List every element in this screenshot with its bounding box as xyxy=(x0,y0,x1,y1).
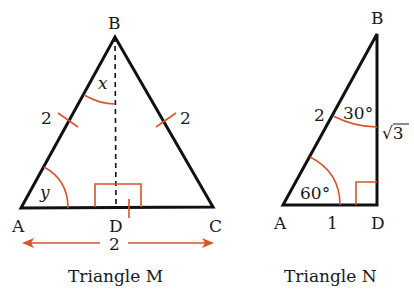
base-label-m: 2 xyxy=(109,234,120,254)
side-ab-label-n: 2 xyxy=(314,105,325,125)
right-angle-marker xyxy=(95,184,141,207)
caption-triangle-n: Triangle N xyxy=(284,266,377,286)
triangle-n: B A D 2 √3 1 30° 60° Triangle N xyxy=(273,8,409,286)
vertex-b-n: B xyxy=(371,8,384,28)
side-bc-label-m: 2 xyxy=(180,108,191,128)
angle-60-label: 60° xyxy=(300,183,330,203)
triangle-m: B A D C 2 2 2 x y Triangle M xyxy=(11,13,222,286)
vertex-c-m: C xyxy=(209,216,222,236)
vertex-a-m: A xyxy=(11,216,25,236)
angle-30-label: 30° xyxy=(343,103,373,123)
vertex-b-m: B xyxy=(108,13,121,33)
vertex-d-n: D xyxy=(371,213,385,233)
caption-triangle-m: Triangle M xyxy=(68,266,163,286)
angle-y-label: y xyxy=(39,182,50,202)
side-bd-label-n: √3 xyxy=(382,123,404,143)
diagram-canvas: B A D C 2 2 2 x y Triangle M B A D 2 √3 … xyxy=(0,0,414,289)
altitude-bd xyxy=(115,37,116,207)
angle-arc-x xyxy=(84,95,115,104)
side-ad-label-n: 1 xyxy=(327,213,338,233)
vertex-a-n: A xyxy=(273,213,287,233)
right-angle-marker-n xyxy=(356,182,377,205)
vertex-d-m: D xyxy=(109,216,123,236)
angle-x-label: x xyxy=(98,73,108,93)
side-ab-label-m: 2 xyxy=(41,108,52,128)
